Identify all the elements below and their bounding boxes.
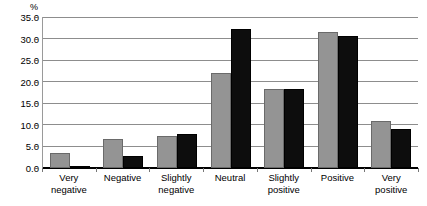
- bar: [391, 129, 411, 168]
- x-axis-category-label: Slightly positive: [257, 172, 311, 195]
- bar-group: [311, 17, 365, 168]
- bar: [264, 89, 284, 168]
- y-axis-tick-mark: [35, 17, 39, 18]
- y-axis-tick-mark: [35, 60, 39, 61]
- x-axis-category-label: Neutral: [203, 172, 257, 195]
- bar: [231, 29, 251, 168]
- y-axis-tick-labels: 35.030.025.020.015.010.05.00.0: [0, 17, 39, 168]
- y-axis-tick-label: 10.0: [0, 120, 39, 129]
- x-axis-category-labels: Very negativeNegativeSlightly negativeNe…: [42, 172, 418, 195]
- bar: [123, 156, 143, 168]
- bar: [103, 139, 123, 168]
- bar: [318, 32, 338, 168]
- y-axis-tick-label: 15.0: [0, 99, 39, 108]
- x-axis-category-label: Positive: [311, 172, 365, 195]
- x-axis-category-label: Negative: [96, 172, 150, 195]
- x-axis-tick-mark: [418, 168, 419, 172]
- y-axis-tick-mark: [35, 125, 39, 126]
- y-axis-tick-label: 25.0: [0, 56, 39, 65]
- bar-chart: % 35.030.025.020.015.010.05.00.0 Very ne…: [0, 0, 427, 206]
- bar: [371, 121, 391, 168]
- y-axis-tick-label: 20.0: [0, 77, 39, 86]
- bar-group: [43, 17, 97, 168]
- x-axis-category-label: Slightly negative: [149, 172, 203, 195]
- y-axis-tick-label: 5.0: [0, 142, 39, 151]
- y-axis-tick-mark: [35, 39, 39, 40]
- bar-group: [204, 17, 258, 168]
- bar: [50, 153, 70, 168]
- y-axis-unit-label: %: [30, 2, 38, 12]
- bar-group: [97, 17, 151, 168]
- bar-groups: [43, 17, 418, 168]
- y-axis-tick-label: 0.0: [0, 164, 39, 173]
- bar-group: [150, 17, 204, 168]
- y-axis-tick-mark: [35, 103, 39, 104]
- y-axis-tick-mark: [35, 146, 39, 147]
- bar-group: [364, 17, 418, 168]
- plot-area: [42, 17, 418, 168]
- bar: [284, 89, 304, 168]
- bar: [177, 134, 197, 169]
- bar: [211, 73, 231, 168]
- bar-group: [257, 17, 311, 168]
- y-axis-tick-label: 30.0: [0, 34, 39, 43]
- bar: [338, 36, 358, 168]
- y-axis-tick-mark: [35, 168, 39, 169]
- bar: [157, 136, 177, 168]
- y-axis-tick-label: 35.0: [0, 13, 39, 22]
- y-axis-tick-mark: [35, 82, 39, 83]
- x-axis-category-label: Very negative: [42, 172, 96, 195]
- x-axis-category-label: Very positive: [364, 172, 418, 195]
